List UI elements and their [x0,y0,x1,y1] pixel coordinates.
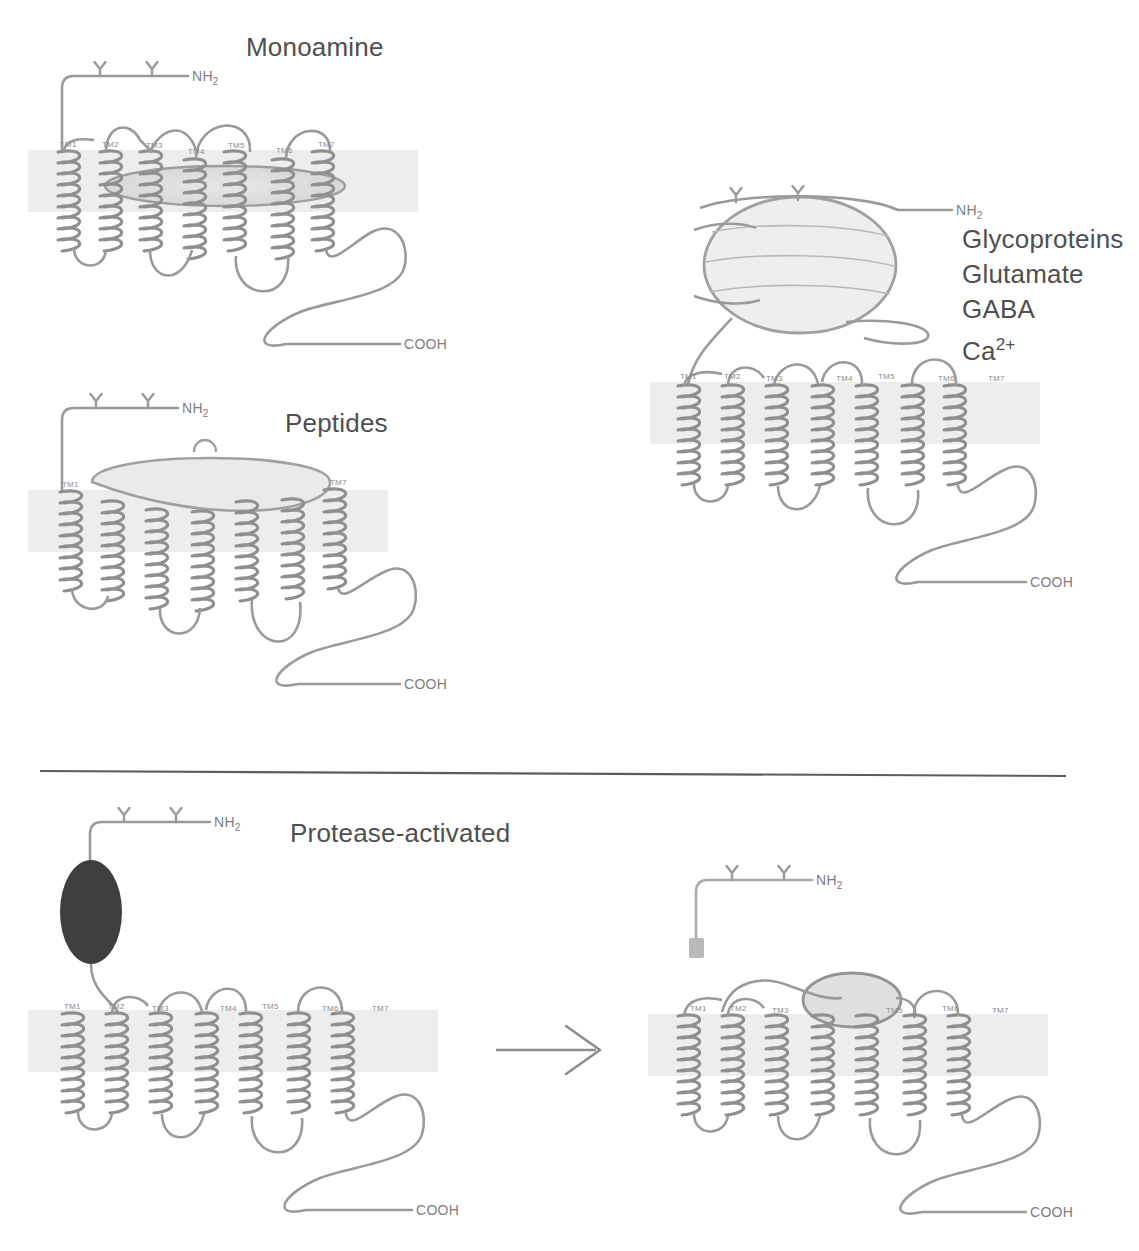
cleavage-site-marker [689,938,704,958]
ligand-calcium: Ca2+ [962,327,1124,369]
diagram-vector-layer [0,0,1139,1251]
tm-label-tm7: TM7 [318,140,335,149]
n-terminus-label-glycoproteins: NH2 [956,202,983,221]
membrane-band-glycoproteins [650,382,1040,444]
tethered-ligand-docked [803,973,901,1027]
figure-canvas: Monoamine NH2 COOH TM1 TM2 TM3 TM4 TM5 T… [0,0,1139,1251]
c-terminus-label-par-left: COOH [416,1202,459,1218]
transition-arrow [496,1026,600,1074]
ligand-gaba: GABA [962,292,1124,327]
n-terminus-label-par-left: NH2 [214,814,241,833]
tm-label-tm1: TM1 [60,140,77,149]
tm-label-gp-tm6: TM6 [938,374,955,383]
tm-label-tm6: TM6 [276,146,293,155]
tm-label-par-r-tm5: TM5 [886,1006,903,1015]
tm-label-peptides-tm7: TM7 [330,478,347,487]
tm-label-par-r-tm3: TM3 [772,1006,789,1015]
panel-title-protease-activated: Protease-activated [290,818,510,849]
tm-label-par-r-tm7: TM7 [992,1006,1009,1015]
tm-label-tm3: TM3 [146,141,163,150]
c-terminus-label-glycoproteins: COOH [1030,574,1073,590]
c-terminus-label-monoamine: COOH [404,336,447,352]
tm-label-gp-tm7: TM7 [988,374,1005,383]
tm-label-par-l-tm4: TM4 [220,1004,237,1013]
c-terminus-label-par-right: COOH [1030,1204,1073,1220]
tm-label-gp-tm5: TM5 [878,372,895,381]
tm-label-tm4: TM4 [188,147,205,156]
c-terminus-label-peptides: COOH [404,676,447,692]
n-terminal-tail-par-left [90,822,210,862]
tm-label-par-r-tm2: TM2 [730,1004,747,1013]
glycosylation-icon [95,62,106,76]
tm-label-par-r-tm6: TM6 [942,1004,959,1013]
tm-label-gp-tm4: TM4 [836,374,853,383]
tm-label-par-r-tm1: TM1 [690,1004,707,1013]
ligand-glutamate: Glutamate [962,257,1124,292]
glycosylation-icon [147,62,158,76]
section-divider [40,771,1066,776]
membrane-band-par-left [28,1010,438,1072]
cleaved-n-fragment [696,880,812,944]
tm-label-par-l-tm2: TM2 [108,1002,125,1011]
tm-label-tm5: TM5 [228,141,245,150]
c-terminal-tail-par-right [900,1097,1039,1214]
tm-label-gp-tm1: TM1 [680,372,697,381]
panel-title-peptides: Peptides [285,408,388,439]
c-terminal-tail-par-left [284,1095,423,1212]
n-terminus-label-par-right: NH2 [816,872,843,891]
tm-label-par-l-tm1: TM1 [64,1002,81,1011]
panel-protease-activated-cleaved [648,866,1048,1214]
tm-label-par-l-tm3: TM3 [152,1004,169,1013]
tm-label-par-l-tm7: TM7 [372,1004,389,1013]
ligand-list-glycoproteins: Glycoproteins Glutamate GABA Ca2+ [962,222,1124,369]
tm-label-peptides-tm1: TM1 [62,480,79,489]
tm-label-gp-tm2: TM2 [724,372,741,381]
tm-label-par-l-tm5: TM5 [262,1002,279,1011]
panel-monoamine [28,62,418,346]
n-terminus-label-monoamine: NH2 [192,68,219,87]
tm-label-par-l-tm6: TM6 [322,1004,339,1013]
tm-label-gp-tm3: TM3 [766,374,783,383]
panel-title-monoamine: Monoamine [246,32,384,63]
protease-prodomain-blob [60,860,122,964]
n-terminus-label-peptides: NH2 [182,400,209,419]
extracellular-domain-glycoproteins [704,197,896,333]
tm-label-tm2: TM2 [102,140,119,149]
ligand-glycoproteins: Glycoproteins [962,222,1124,257]
